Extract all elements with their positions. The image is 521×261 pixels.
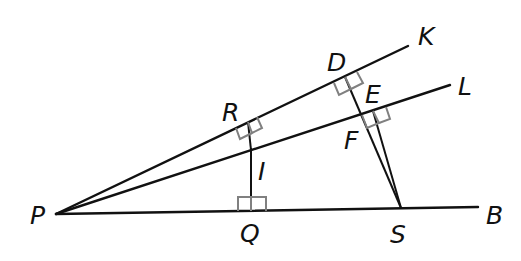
right-angle-marker-D2 xyxy=(351,72,363,89)
label-E: E xyxy=(365,82,381,107)
label-P: P xyxy=(30,203,45,228)
label-B: B xyxy=(486,203,503,228)
ray-PL xyxy=(56,85,450,214)
label-S: S xyxy=(390,222,406,247)
label-K: K xyxy=(418,24,434,49)
label-I: I xyxy=(258,159,265,184)
right-angle-marker-E2 xyxy=(379,107,390,123)
segment-ES xyxy=(373,111,401,208)
label-F: F xyxy=(344,128,358,153)
label-R: R xyxy=(222,100,239,125)
geometry-diagram: P B K L R I Q D E F S xyxy=(0,0,521,261)
diagram-canvas xyxy=(0,0,521,261)
label-L: L xyxy=(458,74,472,99)
label-Q: Q xyxy=(240,221,260,246)
label-D: D xyxy=(327,50,346,75)
